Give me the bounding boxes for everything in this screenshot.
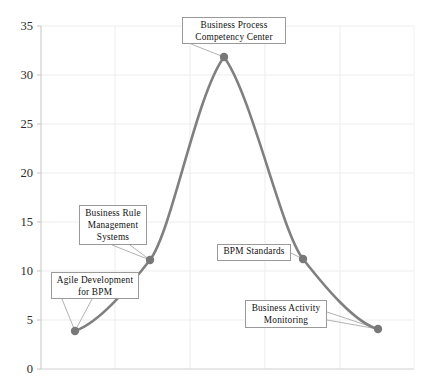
y-tick-label-5: 5 [6, 314, 33, 327]
data-point-bpm-standards[interactable] [299, 255, 307, 263]
data-point-business-rule-management-systems[interactable] [146, 256, 154, 264]
y-tick-label-15: 15 [6, 216, 33, 229]
y-tick-label-25: 25 [6, 118, 33, 131]
data-point-agile-development-for-bpm[interactable] [71, 327, 79, 335]
data-point-business-activity-monitoring[interactable] [374, 325, 382, 333]
y-tick-label-20: 20 [6, 167, 33, 180]
callout-business-rule-management-systems[interactable]: Business Rule Management Systems [79, 205, 147, 245]
chart-canvas [0, 0, 434, 390]
line-chart: 35 30 25 20 15 10 5 0 Business Process C… [0, 0, 434, 390]
data-point-business-process-competency-center[interactable] [220, 53, 228, 61]
y-tick-label-10: 10 [6, 265, 33, 278]
callout-business-activity-monitoring[interactable]: Business Activity Monitoring [245, 300, 327, 328]
y-tick-label-35: 35 [6, 20, 33, 33]
callout-bpm-standards[interactable]: BPM Standards [217, 244, 291, 261]
y-tick-label-30: 30 [6, 69, 33, 82]
callout-agile-development-for-bpm[interactable]: Agile Development for BPM [51, 272, 139, 299]
y-tick-label-0: 0 [6, 363, 33, 376]
callout-business-process-competency-center[interactable]: Business Process Competency Center [182, 17, 286, 44]
